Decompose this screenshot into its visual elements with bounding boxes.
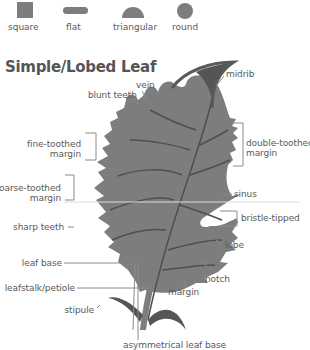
label-margin: margin <box>168 287 199 297</box>
label-leafstalk: leafstalk/petiole <box>5 283 75 293</box>
shape-label-round: round <box>172 22 198 32</box>
diagram-title: Simple/Lobed Leaf <box>5 58 156 76</box>
label-coarse-toothed: coarse-toothed <box>0 183 61 193</box>
label-midrib: midrib <box>226 69 254 79</box>
label-bristle-tipped: bristle-tipped <box>241 213 300 223</box>
label-double-toothed: double-toothed <box>246 138 310 148</box>
shape-label-square: square <box>8 22 39 32</box>
label-coarse-toothed-margin: margin <box>30 193 61 203</box>
triangular-tooth-icon <box>122 7 144 18</box>
square-tooth-icon <box>17 2 33 18</box>
round-tooth-icon <box>177 3 193 19</box>
label-stipule: stipule <box>65 305 94 315</box>
label-sinus: sinus <box>234 189 257 199</box>
label-notch: notch <box>205 274 230 284</box>
label-fine-toothed: fine-toothed <box>27 139 81 149</box>
label-leaf-base: leaf base <box>22 258 62 268</box>
label-double-toothed-margin: margin <box>246 148 277 158</box>
label-lobe: lobe <box>225 240 244 250</box>
label-fine-toothed-margin: margin <box>50 149 81 159</box>
label-asymmetrical-leaf-base: asymmetrical leaf base <box>123 340 226 350</box>
flat-tooth-icon <box>63 7 88 14</box>
shape-label-triangular: triangular <box>113 22 157 32</box>
label-sharp-teeth: sharp teeth <box>13 222 64 232</box>
stipule-right <box>148 310 186 330</box>
label-vein: vein <box>136 80 155 90</box>
shape-label-flat: flat <box>66 22 81 32</box>
leaf-diagram <box>0 0 310 350</box>
leaf-blade <box>94 75 240 293</box>
label-blunt-teeth: blunt teeth <box>88 90 137 100</box>
